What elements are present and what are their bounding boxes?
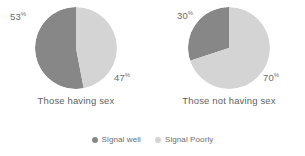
legend-label: Signal Poorly: [165, 136, 213, 144]
pie-chart-not-having-sex: [188, 7, 270, 89]
legend-swatch-icon: [92, 137, 98, 143]
pie-label-signal-poorly: 70%: [263, 72, 279, 83]
legend-item-signal-well: Signal well: [92, 136, 141, 144]
pie-wrap-not-having-sex: [188, 7, 270, 89]
legend-swatch-icon: [155, 137, 161, 143]
pie-label-signal-poorly: 47%: [114, 72, 130, 83]
pie-wrap-having-sex: [35, 7, 117, 89]
percent-sign: %: [21, 11, 26, 17]
percent-sign: %: [125, 72, 130, 78]
chart-panel-having-sex: 53% 47% Those having sex: [0, 0, 152, 132]
percent-sign: %: [274, 72, 279, 78]
legend-label: Signal well: [102, 136, 141, 144]
chart-caption-having-sex: Those having sex: [0, 95, 152, 106]
pie-label-signal-well: 30%: [177, 10, 193, 21]
pie-chart-having-sex: [35, 7, 117, 89]
chart-caption-not-having-sex: Those not having sex: [153, 95, 305, 106]
legend-item-signal-poorly: Signal Poorly: [155, 136, 213, 144]
pie-slice-signal-poorly: [76, 7, 117, 88]
pie-label-signal-well: 53%: [10, 11, 26, 22]
chart-legend: Signal well Signal Poorly: [0, 136, 305, 144]
pie-chart-figure: 53% 47% Those having sex 30% 70% Those n…: [0, 0, 305, 156]
percent-sign: %: [188, 10, 193, 16]
chart-panel-not-having-sex: 30% 70% Those not having sex: [153, 0, 305, 132]
